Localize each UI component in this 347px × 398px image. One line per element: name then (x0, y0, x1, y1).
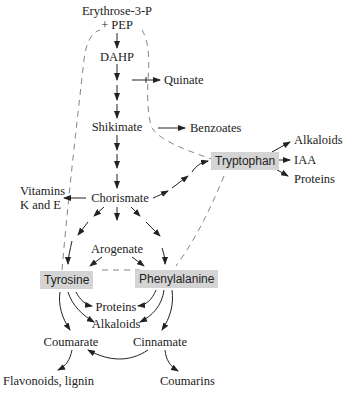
node-benzoates: Benzoates (190, 121, 241, 135)
node-dahp: DAHP (100, 50, 134, 64)
node-trp-proteins: Proteins (294, 172, 335, 186)
node-tryptophan: Tryptophan (211, 152, 279, 170)
node-coumarins: Coumarins (160, 374, 215, 388)
node-phenylalanine: Phenylalanine (135, 270, 218, 288)
node-cinnamate: Cinnamate (133, 335, 187, 349)
node-arogenate: Arogenate (91, 242, 143, 256)
node-chorismate: Chorismate (91, 191, 149, 205)
node-erythrose: Erythrose-3-P (82, 4, 152, 18)
node-quinate: Quinate (164, 73, 204, 87)
dashed-boundary (62, 30, 224, 270)
node-shikimate: Shikimate (92, 120, 143, 134)
node-trp-alkaloids: Alkaloids (294, 133, 343, 147)
node-coumarate: Coumarate (44, 335, 99, 349)
node-pep: + PEP (101, 18, 133, 32)
node-proteins: Proteins (96, 300, 137, 314)
node-flavonoids-lignin: Flavonoids, lignin (3, 374, 94, 388)
node-tyrosine: Tyrosine (40, 271, 93, 289)
node-alkaloids: Alkaloids (92, 317, 141, 331)
node-vitamins-line2: K and E (20, 198, 61, 212)
node-vitamins-line1: Vitamins (20, 184, 65, 198)
node-iaa: IAA (294, 153, 316, 167)
